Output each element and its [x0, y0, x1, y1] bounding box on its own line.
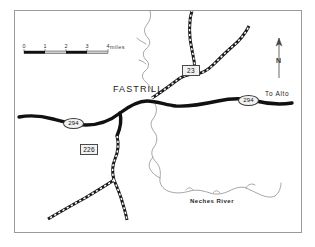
gravel-road-network [48, 11, 249, 220]
route-shield-226[interactable]: 226 [80, 144, 98, 155]
river-bend-a [186, 188, 193, 190]
river-bend-b [213, 191, 220, 193]
river-tributary-upper [137, 38, 146, 44]
gravel-road-23[interactable] [152, 26, 249, 98]
river-label-neches: Neches River [190, 198, 234, 204]
river-upper-branch [142, 11, 152, 92]
scale-tick-0: 0 [22, 43, 25, 49]
river-neches-main [151, 104, 275, 197]
river-east-tail [275, 183, 281, 196]
route-shield-294-west[interactable]: 294 [63, 118, 84, 129]
gravel-road-dashes [48, 11, 249, 220]
route-shield-23[interactable]: 23 [182, 65, 200, 76]
destination-label-to-alto: To Alto [265, 90, 289, 97]
scale-units-label: miles [110, 44, 125, 50]
river-tributary-upper-2 [139, 60, 146, 64]
scale-tick-2: 2 [64, 43, 67, 49]
place-label-fastrill: FASTRILL [113, 84, 163, 94]
north-arrow-label: N [276, 57, 282, 64]
river-bend-c [246, 184, 255, 188]
map-canvas [0, 0, 315, 247]
map-figure: FASTRILL To Alto Neches River N 0 1 2 3 … [0, 0, 315, 247]
scale-tick-3: 3 [85, 43, 88, 49]
route-shield-294-east[interactable]: 294 [238, 95, 259, 106]
gravel-road-226[interactable] [113, 136, 118, 180]
scale-tick-1: 1 [43, 43, 46, 49]
scale-bar-icon [24, 49, 108, 54]
